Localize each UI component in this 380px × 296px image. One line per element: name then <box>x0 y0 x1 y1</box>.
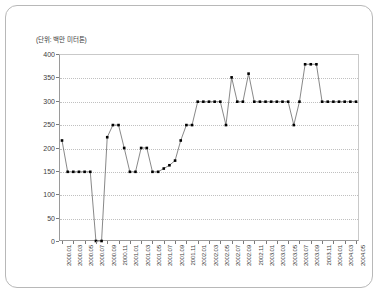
data-point-marker <box>326 100 329 103</box>
x-axis-tick-mark <box>277 241 278 244</box>
data-point-marker <box>225 124 228 127</box>
data-point-marker <box>151 171 154 174</box>
y-axis-tick-label: 150 <box>31 167 55 174</box>
y-axis-tick-label: 100 <box>31 191 55 198</box>
data-point-marker <box>276 100 279 103</box>
unit-label: (단위: 백만 미터톤) <box>36 34 87 44</box>
data-point-marker <box>321 100 324 103</box>
data-point-marker <box>343 100 346 103</box>
data-point-marker <box>174 159 177 162</box>
x-axis-tick-label: 2002.11 <box>257 245 264 266</box>
data-point-marker <box>157 171 160 174</box>
x-axis-tick-label: 2003.07 <box>302 245 309 266</box>
data-point-marker <box>287 100 290 103</box>
x-axis-tick-mark <box>220 241 221 244</box>
x-axis-tick-label: 2002.03 <box>212 245 219 266</box>
x-axis-tick-label: 2004.01 <box>336 245 343 266</box>
data-point-marker <box>332 100 335 103</box>
x-axis-tick-mark <box>119 241 120 244</box>
y-axis-tick-label: 300 <box>31 97 55 104</box>
x-axis-tick-label: 2000.03 <box>76 245 83 266</box>
x-axis-tick-mark <box>232 241 233 244</box>
data-point-marker <box>191 124 194 127</box>
y-axis-tick-label: 250 <box>31 121 55 128</box>
y-axis-tick-label: 0 <box>31 238 55 245</box>
x-axis-tick-mark <box>152 241 153 244</box>
data-point-marker <box>66 171 69 174</box>
x-axis-tick-mark <box>311 241 312 244</box>
x-axis-tick-label: 2000.01 <box>65 245 72 266</box>
x-axis-tick-label: 2003.05 <box>291 245 298 266</box>
x-axis-tick-mark <box>85 241 86 244</box>
data-point-marker <box>106 136 109 139</box>
y-axis-tick-labels: 050100150200250300350400 <box>31 54 55 241</box>
x-axis-tick-label: 2000.05 <box>87 245 94 266</box>
data-point-marker <box>264 100 267 103</box>
x-axis-tick-mark <box>299 241 300 244</box>
x-axis-tick-label: 2001.01 <box>132 245 139 266</box>
x-axis-tick-mark <box>198 241 199 244</box>
x-axis-tick-mark <box>356 241 357 244</box>
x-axis-tick-mark <box>345 241 346 244</box>
x-axis-tick-mark <box>243 241 244 244</box>
x-axis-tick-mark <box>288 241 289 244</box>
x-axis-tick-mark <box>107 241 108 244</box>
x-axis-tick-label: 2001.03 <box>144 245 151 266</box>
data-point-marker <box>140 147 143 150</box>
x-axis-tick-mark <box>175 241 176 244</box>
data-point-marker <box>247 72 250 75</box>
data-point-marker <box>72 171 75 174</box>
data-point-marker <box>168 164 171 167</box>
x-axis-tick-label: 2003.03 <box>279 245 286 266</box>
data-point-marker <box>162 167 165 170</box>
x-axis-tick-label: 2001.09 <box>178 245 185 266</box>
x-axis-tick-label: 2000.11 <box>121 245 128 266</box>
y-axis-tick-label: 50 <box>31 214 55 221</box>
data-point-marker <box>196 100 199 103</box>
chart-card: (단위: 백만 미터톤) 050100150200250300350400 20… <box>5 5 373 288</box>
data-point-marker <box>338 100 341 103</box>
data-point-marker <box>270 100 273 103</box>
data-point-marker <box>242 100 245 103</box>
x-axis-tick-label: 2003.01 <box>268 245 275 266</box>
x-axis-tick-mark <box>186 241 187 244</box>
x-axis-tick-label: 2001.11 <box>189 245 196 266</box>
x-axis-tick-label: 2002.07 <box>234 245 241 266</box>
data-point-marker <box>259 100 262 103</box>
data-point-marker <box>185 124 188 127</box>
data-point-marker <box>83 171 86 174</box>
x-axis-tick-label: 2000.09 <box>110 245 117 266</box>
data-point-marker <box>293 124 296 127</box>
data-point-marker <box>349 100 352 103</box>
x-axis-tick-mark <box>62 241 63 244</box>
y-axis-tick-label: 200 <box>31 144 55 151</box>
x-axis-tick-label: 2001.05 <box>155 245 162 266</box>
data-point-marker <box>213 100 216 103</box>
data-point-marker <box>146 147 149 150</box>
x-axis-tick-mark <box>322 241 323 244</box>
data-point-marker <box>236 100 239 103</box>
data-point-marker <box>129 171 132 174</box>
data-point-marker <box>281 100 284 103</box>
x-axis-tick-label: 2002.05 <box>223 245 230 266</box>
x-axis-tick-label: 2001.07 <box>166 245 173 266</box>
x-axis-tick-mark <box>333 241 334 244</box>
data-point-marker <box>202 100 205 103</box>
data-point-marker <box>123 147 126 150</box>
series-line <box>62 64 356 241</box>
x-axis-tick-labels: 2000.012000.032000.052000.072000.092000.… <box>59 245 359 289</box>
data-point-marker <box>219 100 222 103</box>
data-point-marker <box>179 139 182 142</box>
x-axis-tick-mark <box>209 241 210 244</box>
y-axis-tick-label: 350 <box>31 74 55 81</box>
x-axis-tick-label: 2002.01 <box>200 245 207 266</box>
data-point-marker <box>315 63 318 66</box>
x-axis-tick-label: 2002.09 <box>245 245 252 266</box>
data-point-marker <box>61 139 64 142</box>
line-series <box>59 54 359 241</box>
data-point-marker <box>112 124 115 127</box>
data-point-marker <box>309 63 312 66</box>
data-point-marker <box>230 76 233 79</box>
x-axis-tick-label: 2003.11 <box>325 245 332 266</box>
data-point-marker <box>304 63 307 66</box>
